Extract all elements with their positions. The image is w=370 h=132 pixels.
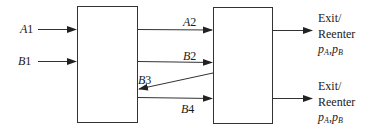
probability-label-bottom: pA,pB — [318, 111, 343, 125]
reenter-label-top: Reenter — [318, 28, 355, 40]
exit-label-top: Exit/ — [318, 12, 341, 24]
p-b-sub-top: B — [338, 48, 343, 57]
arrow-b2 — [138, 62, 212, 63]
label-a2-idx: 2 — [190, 15, 196, 29]
arrow-b4 — [138, 98, 212, 99]
label-b2-idx: 2 — [190, 49, 196, 63]
left-block — [78, 7, 138, 123]
label-b2: B2 — [183, 50, 196, 62]
flow-diagram: A1 B1 A2 B2 B3 B4 Exit/ Reenter pA,pB Ex… — [0, 0, 370, 132]
exit-label-bottom: Exit/ — [318, 80, 341, 92]
label-b4: B4 — [181, 103, 194, 115]
label-a2: A2 — [183, 16, 196, 28]
reenter-label-bottom: Reenter — [318, 96, 355, 108]
arrow-a2 — [138, 30, 212, 31]
label-a1: A1 — [20, 23, 33, 35]
label-b3: B3 — [138, 74, 151, 86]
label-b1: B1 — [18, 55, 31, 67]
label-a1-idx: 1 — [27, 22, 33, 36]
label-b3-idx: 3 — [145, 73, 151, 87]
probability-label-top: pA,pB — [318, 43, 343, 57]
label-b4-idx: 4 — [188, 102, 194, 116]
right-block — [214, 8, 273, 124]
label-b1-idx: 1 — [25, 54, 31, 68]
p-b-sub-bottom: B — [338, 116, 343, 125]
